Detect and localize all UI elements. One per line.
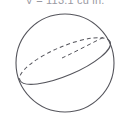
great-circle-visible-arc <box>20 42 116 94</box>
great-circle-hidden-arc <box>14 29 110 81</box>
sphere-figure: V = 113.1 cu in. <box>0 0 130 122</box>
sphere-diagram-svg <box>0 0 130 122</box>
sphere-outline-circle <box>16 14 114 112</box>
